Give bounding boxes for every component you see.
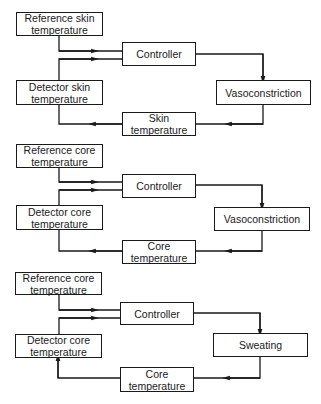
box-label: Vasoconstriction [224, 213, 300, 225]
core-temperature-box: Coretemperature [122, 240, 196, 264]
vasoconstriction-box: Vasoconstriction [216, 80, 311, 105]
box-label: temperature [131, 124, 188, 136]
box-label: temperature [24, 24, 94, 36]
box-label: Controller [136, 180, 182, 192]
box-label: Skin [131, 112, 188, 124]
box-label: Detector core [28, 206, 91, 218]
box-label: temperature [29, 93, 90, 105]
reference-core-temperature-box: Reference coretemperature [16, 144, 103, 168]
box-label: Sweating [239, 339, 282, 351]
box-label: Reference core [24, 144, 96, 156]
controller-box: Controller [122, 174, 196, 198]
controller-box: Controller [120, 302, 194, 325]
box-label: temperature [131, 252, 188, 264]
box-label: Detector skin [29, 81, 90, 93]
skin-temperature-box: Skintemperature [122, 112, 196, 136]
core-temperature-box: Coretemperature [120, 367, 194, 392]
detector-to-controller-line [59, 59, 122, 80]
reference-core-temperature-box: Reference coretemperature [15, 272, 102, 295]
sweating-box: Sweating [213, 333, 308, 357]
box-label: Vasoconstriction [225, 87, 301, 99]
vasoconstriction-box: Vasoconstriction [214, 207, 310, 231]
ref-to-controller-line [59, 35, 122, 51]
effector-to-variable-line [195, 104, 263, 124]
detector-core-temperature-box: Detector coretemperature [16, 205, 103, 230]
controller-to-effector-line [195, 54, 263, 80]
reference-skin-temperature-box: Reference skintemperature [16, 12, 103, 36]
box-label: Controller [136, 48, 182, 60]
box-label: Reference skin [24, 12, 94, 24]
box-label: Controller [134, 308, 180, 320]
box-label: Core [131, 240, 188, 252]
detector-skin-temperature-box: Detector skintemperature [16, 80, 103, 105]
controller-box: Controller [122, 42, 196, 66]
box-label: temperature [24, 156, 96, 168]
box-label: temperature [28, 218, 91, 230]
box-label: temperature [27, 346, 90, 358]
detector-core-temperature-box: Detector coretemperature [15, 334, 102, 358]
box-label: Core [129, 368, 186, 380]
variable-to-detector-line [59, 104, 122, 124]
box-label: temperature [129, 380, 186, 392]
box-label: temperature [23, 284, 95, 296]
box-label: Detector core [27, 334, 90, 346]
box-label: Reference core [23, 272, 95, 284]
